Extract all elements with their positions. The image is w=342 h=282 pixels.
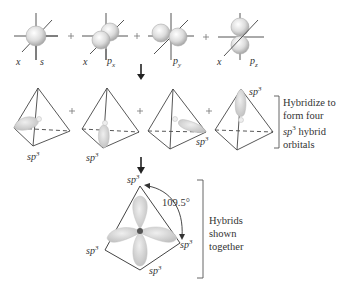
hybrid-label-sp3-right: sp3 (180, 239, 192, 250)
axis-label-x: x (16, 57, 20, 67)
px-orbital (82, 13, 128, 60)
down-arrow-icon (137, 157, 145, 174)
plus-sign (206, 108, 212, 114)
plus-sign (137, 108, 143, 114)
hybrid-label-sp3: sp3 (249, 86, 261, 97)
hybrids-together-caption: Hybrids shown together (209, 214, 243, 253)
pz-orbital (218, 13, 264, 60)
nucleus (137, 228, 143, 234)
down-arrow-icon (137, 64, 145, 80)
orbital-label-py: py (173, 56, 181, 69)
hybridize-caption: Hybridize to form four sp3 hybrid orbita… (283, 96, 336, 151)
lobe-right (140, 227, 177, 242)
orbital-label-pz: pz (250, 56, 258, 69)
lobe-bottom (133, 232, 147, 266)
hybrid-label-sp3: sp3 (86, 152, 98, 163)
lobe-top (133, 196, 147, 229)
hybrid-label-sp3: sp3 (27, 151, 39, 162)
hybrid-label-sp3: sp3 (196, 136, 208, 147)
tetrahedron-1 (14, 88, 70, 146)
hybrid-label-sp3-top: sp3 (127, 174, 139, 185)
bond-angle-label: 109.5° (162, 196, 190, 209)
py-orbital (148, 13, 194, 60)
hybrid-label-sp3-left: sp3 (86, 245, 98, 256)
tetrahedron-2 (82, 88, 139, 148)
tetrahedron-4 (215, 89, 273, 150)
plus-sign (134, 33, 140, 39)
bracket-row3 (197, 180, 203, 278)
axis-label-x: x (83, 57, 87, 67)
plus-sign (68, 33, 74, 39)
hybrid-label-sp3-bottom: sp3 (149, 265, 161, 276)
bracket-row2 (274, 96, 279, 148)
s-orbital (14, 13, 58, 60)
orbital-label-s: s (40, 57, 44, 67)
plus-sign (203, 34, 209, 40)
axis-label-x: x (217, 57, 221, 67)
plus-sign (69, 108, 75, 114)
orbital-label-px: px (107, 56, 115, 69)
